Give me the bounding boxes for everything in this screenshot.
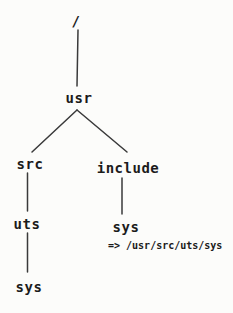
- node-sys-uts: sys: [16, 280, 43, 294]
- node-sys-include: sys: [113, 220, 140, 234]
- node-root: /: [72, 14, 81, 28]
- edge-root-usr: [77, 30, 78, 86]
- filesystem-tree-diagram: / usr src include uts sys sys =>/usr/src…: [0, 0, 233, 313]
- node-include: include: [97, 161, 160, 175]
- node-usr: usr: [66, 91, 93, 105]
- annotation-path: /usr/src/uts/sys: [126, 240, 222, 251]
- arrow-icon: =>: [108, 240, 120, 251]
- edge-usr-include: [77, 110, 127, 152]
- node-src: src: [17, 157, 44, 171]
- edge-usr-src: [32, 110, 77, 152]
- node-uts: uts: [14, 217, 41, 231]
- symlink-annotation: =>/usr/src/uts/sys: [108, 241, 222, 251]
